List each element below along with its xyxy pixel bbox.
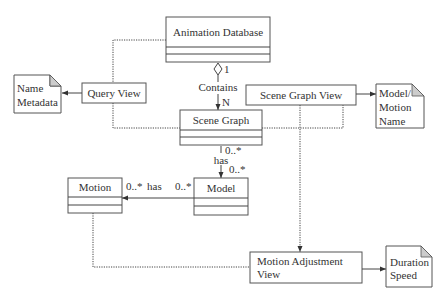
svg-text:0..*: 0..* bbox=[229, 163, 246, 175]
multiplicity-label: 1 bbox=[224, 63, 230, 75]
svg-text:View: View bbox=[257, 268, 280, 280]
svg-text:Name: Name bbox=[379, 115, 405, 127]
aggregation-diamond-icon bbox=[214, 63, 222, 75]
relation-sg-has-model: 0..* has 0..* bbox=[214, 144, 246, 178]
svg-text:has: has bbox=[214, 154, 229, 166]
folded-corner-icon bbox=[412, 84, 424, 96]
view-name: Scene Graph View bbox=[260, 89, 342, 101]
class-model[interactable]: Model bbox=[194, 178, 248, 215]
multiplicity-label: N bbox=[222, 96, 230, 108]
class-name: Animation Database bbox=[173, 26, 263, 38]
relation-contains: 1 Contains N bbox=[198, 63, 237, 110]
class-name: Scene Graph bbox=[193, 114, 250, 126]
svg-text:Motion: Motion bbox=[379, 101, 412, 113]
note-duration-speed: Duration Speed bbox=[386, 246, 432, 287]
view-motion-adjustment[interactable]: Motion Adjustment View bbox=[250, 252, 362, 283]
class-motion[interactable]: Motion bbox=[68, 178, 122, 213]
view-scene-graph[interactable]: Scene Graph View bbox=[246, 85, 356, 105]
relation-label: Contains bbox=[198, 81, 237, 93]
note-name-metadata: Name Metadata bbox=[14, 75, 61, 113]
svg-text:Speed: Speed bbox=[390, 269, 417, 281]
class-name: Model bbox=[207, 182, 236, 194]
svg-text:has: has bbox=[147, 180, 162, 192]
svg-text:Metadata: Metadata bbox=[17, 96, 58, 108]
note-model-motion-name: Model/ Motion Name bbox=[376, 84, 424, 128]
svg-text:0..*: 0..* bbox=[126, 180, 143, 192]
svg-text:Duration: Duration bbox=[390, 256, 430, 268]
relation-model-has-motion: 0..* has 0..* bbox=[122, 180, 194, 198]
class-animation-database[interactable]: Animation Database bbox=[166, 17, 270, 62]
class-name: Motion bbox=[79, 181, 112, 193]
svg-text:0..*: 0..* bbox=[175, 180, 192, 192]
view-query[interactable]: Query View bbox=[82, 83, 146, 103]
svg-text:Model/: Model/ bbox=[379, 87, 412, 99]
svg-text:Name: Name bbox=[17, 82, 43, 94]
folded-corner-icon bbox=[50, 75, 61, 86]
svg-text:Motion Adjustment: Motion Adjustment bbox=[257, 255, 343, 267]
class-scene-graph[interactable]: Scene Graph bbox=[180, 110, 262, 145]
view-name: Query View bbox=[87, 87, 140, 99]
uml-diagram: Animation Database 1 Contains N Query Vi… bbox=[0, 0, 443, 298]
